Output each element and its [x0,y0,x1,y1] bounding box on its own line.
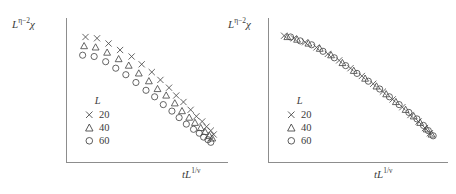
legend-item-20-left: 20 [84,108,110,121]
legend-label-60-right: 60 [301,134,312,147]
y-axis-label-exponent-left: η−2 [18,16,30,25]
legend-label-20-right: 20 [301,108,312,121]
cross-icon [84,109,95,120]
panel-left: Lη−2χ L 20 40 [0,0,228,194]
legend-left: L 20 40 60 [84,94,110,147]
legend-item-20-right: 20 [286,108,312,121]
y-axis-label-left: Lη−2χ [12,18,35,30]
legend-label-40-right: 40 [301,121,312,134]
cross-icon [286,109,297,120]
legend-right: L 20 40 60 [286,94,312,147]
legend-item-40-right: 40 [286,121,312,134]
x-axis-label-left: tL1/ν [182,168,200,180]
x-axis-label-exponent-left: 1/ν [191,166,200,175]
legend-item-60-right: 60 [286,134,312,147]
y-axis-label-exponent-right: η−2 [234,16,246,25]
x-axis-line-right [268,162,448,163]
legend-item-40-left: 40 [84,121,110,134]
legend-title-right: L [286,94,312,108]
triangle-icon [84,122,95,133]
panel-right: Lη−2χ L 20 40 [228,0,456,194]
legend-item-60-left: 60 [84,134,110,147]
circle-icon [286,135,297,146]
y-axis-label-right: Lη−2χ [228,18,251,30]
legend-label-60-left: 60 [99,134,110,147]
y-axis-label-variable-right: χ [246,18,251,30]
legend-label-40-left: 40 [99,121,110,134]
triangle-icon [286,122,297,133]
x-axis-line-left [66,162,228,163]
x-axis-label-exponent-right: 1/ν [383,166,392,175]
circle-icon [84,135,95,146]
scaling-collapse-figure: Lη−2χ L 20 40 [0,0,456,194]
y-axis-label-variable-left: χ [30,18,35,30]
legend-label-20-left: 20 [99,108,110,121]
x-axis-label-right: tL1/ν [374,168,392,180]
legend-title-left: L [84,94,110,108]
